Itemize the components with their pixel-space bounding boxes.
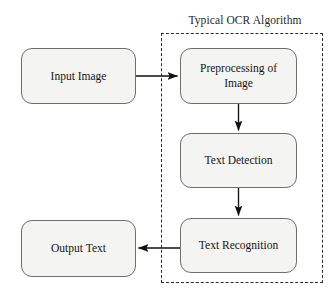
node-output-text[interactable]: Output Text	[21, 220, 136, 277]
ocr-flowchart-diagram: Typical OCR Algorithm Input Image Prepro…	[0, 0, 330, 303]
node-input-image[interactable]: Input Image	[21, 48, 136, 104]
node-preprocessing-of-image-label: Preprocessing of Image	[200, 61, 277, 91]
node-preprocessing-of-image[interactable]: Preprocessing of Image	[180, 48, 297, 104]
node-input-image-label: Input Image	[51, 69, 107, 84]
node-text-detection-label: Text Detection	[205, 153, 273, 168]
node-output-text-label: Output Text	[51, 241, 106, 256]
node-text-recognition-label: Text Recognition	[199, 238, 278, 253]
group-title-typical-ocr-algorithm: Typical OCR Algorithm	[163, 13, 327, 28]
node-text-recognition[interactable]: Text Recognition	[180, 218, 297, 273]
node-text-detection[interactable]: Text Detection	[180, 133, 297, 188]
